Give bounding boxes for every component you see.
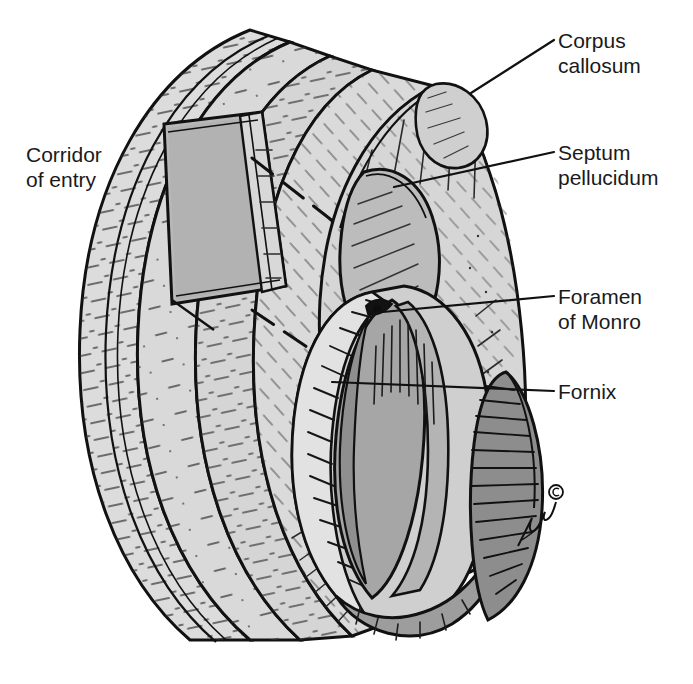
label-fornix: Fornix bbox=[558, 379, 616, 404]
leader-corpus-callosum bbox=[471, 40, 554, 93]
anatomy-illustration bbox=[0, 0, 693, 684]
label-foramen-of-monro: Foramen of Monro bbox=[558, 284, 642, 334]
label-corpus-callosum: Corpus callosum bbox=[558, 28, 641, 78]
illustration-canvas: Corpus callosum Septum pellucidum Forame… bbox=[0, 0, 693, 684]
label-corridor-of-entry: Corridor of entry bbox=[26, 142, 102, 192]
hippocampus-thalamus-mass bbox=[470, 372, 542, 620]
copyright-mark bbox=[549, 485, 563, 499]
label-septum-pellucidum: Septum pellucidum bbox=[558, 140, 658, 190]
